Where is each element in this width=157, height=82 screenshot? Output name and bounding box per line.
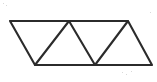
scan-speck	[122, 72, 123, 73]
scan-speck	[6, 5, 7, 6]
scan-speck	[3, 3, 4, 4]
scan-speck	[131, 71, 132, 72]
scan-speck	[126, 74, 127, 75]
diagram-canvas	[0, 0, 157, 82]
triangulated-parallelogram-figure	[0, 0, 157, 82]
scan-speck	[150, 12, 151, 13]
